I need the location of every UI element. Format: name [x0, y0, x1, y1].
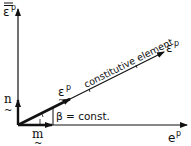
angle-label: β = const.	[56, 110, 110, 122]
eps-tilde: ~	[58, 95, 66, 105]
horizontal-axis-superscript: p	[176, 129, 181, 138]
n-tilde: ~	[4, 104, 12, 115]
diagonal-axis-superscript: p	[174, 39, 179, 48]
diagonal-tick	[42, 114, 43, 117]
m-tilde: ~	[34, 137, 42, 146]
vertical-axis-label: ε	[3, 5, 10, 19]
horizontal-axis-label: e	[168, 131, 175, 145]
constitutive-element-diagram: ε p ε p e p constitutive element n ~ m ~…	[0, 0, 191, 146]
eps-vector-superscript: p	[66, 83, 71, 92]
vertical-axis-superscript: p	[11, 3, 16, 12]
diagonal-caption: constitutive element	[82, 36, 175, 90]
